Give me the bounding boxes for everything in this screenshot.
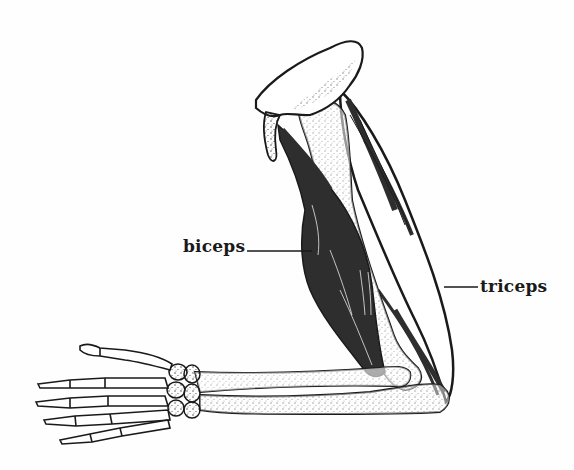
biceps-label: biceps (183, 238, 245, 255)
forearm-bones (195, 367, 449, 414)
hand-bones (36, 344, 172, 444)
carpal-bones (167, 364, 200, 418)
arm-illustration (0, 0, 574, 470)
triceps-label: triceps (480, 278, 547, 295)
diagram-canvas: biceps triceps (0, 0, 574, 470)
